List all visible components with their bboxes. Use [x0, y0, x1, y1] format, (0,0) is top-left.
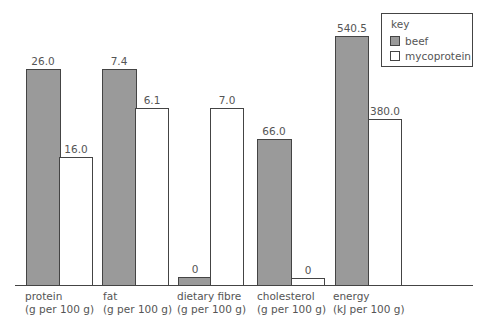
x-axis-line — [15, 285, 473, 286]
legend-swatch-mycoprotein — [390, 51, 400, 61]
bar-beef-energy — [335, 36, 369, 286]
bar-mycoprotein-dietary-fibre — [210, 108, 244, 286]
category-label-protein: protein (g per 100 g) — [25, 290, 94, 316]
category-unit: (kJ per 100 g) — [333, 303, 405, 316]
bar-beef-protein — [26, 69, 61, 286]
category-name: dietary fibre — [177, 290, 246, 303]
value-label-mycoprotein-cholesterol: 0 — [283, 264, 333, 276]
legend-title: key — [391, 18, 409, 30]
bar-mycoprotein-energy — [368, 119, 402, 286]
category-name: protein — [25, 290, 94, 303]
bar-mycoprotein-fat — [135, 108, 169, 286]
legend-swatch-beef — [390, 36, 400, 46]
category-name: cholesterol — [257, 290, 326, 303]
bar-mycoprotein-protein — [59, 157, 93, 286]
value-label-mycoprotein-dietary-fibre: 7.0 — [202, 94, 252, 106]
category-unit: (g per 100 g) — [177, 303, 246, 316]
legend-label-mycoprotein: mycoprotein — [405, 50, 471, 62]
legend: key beef mycoprotein — [381, 13, 473, 67]
category-name: energy — [333, 290, 405, 303]
value-label-beef-cholesterol: 66.0 — [249, 125, 299, 137]
legend-item-beef: beef — [390, 35, 428, 47]
category-unit: (g per 100 g) — [257, 303, 326, 316]
category-label-fat: fat (g per 100 g) — [103, 290, 172, 316]
category-label-dietary-fibre: dietary fibre (g per 100 g) — [177, 290, 246, 316]
legend-label-beef: beef — [405, 35, 428, 47]
value-label-mycoprotein-fat: 6.1 — [127, 94, 177, 106]
category-unit: (g per 100 g) — [103, 303, 172, 316]
category-name: fat — [103, 290, 172, 303]
value-label-beef-protein: 26.0 — [18, 55, 68, 67]
value-label-beef-fat: 7.4 — [94, 55, 144, 67]
legend-item-mycoprotein: mycoprotein — [390, 50, 471, 62]
category-label-energy: energy (kJ per 100 g) — [333, 290, 405, 316]
value-label-mycoprotein-energy: 380.0 — [360, 105, 410, 117]
category-unit: (g per 100 g) — [25, 303, 94, 316]
value-label-beef-energy: 540.5 — [327, 22, 377, 34]
category-label-cholesterol: cholesterol (g per 100 g) — [257, 290, 326, 316]
value-label-mycoprotein-protein: 16.0 — [51, 143, 101, 155]
